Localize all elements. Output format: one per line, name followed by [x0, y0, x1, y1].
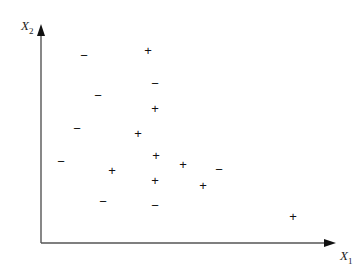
- plus-point: +: [289, 210, 297, 223]
- plus-point: +: [199, 179, 207, 192]
- plus-point: +: [144, 44, 152, 57]
- plus-point: +: [151, 102, 159, 115]
- minus-point: −: [94, 89, 102, 102]
- plus-point: +: [179, 158, 187, 171]
- x-axis-label: X1: [340, 248, 352, 266]
- minus-point: −: [99, 195, 107, 208]
- plus-point: +: [151, 174, 159, 187]
- minus-point: −: [215, 163, 223, 176]
- scatter-diagram: X2 X1 +++++++++−−−−−−−−: [0, 0, 364, 274]
- plus-point: +: [152, 149, 160, 162]
- plus-point: +: [134, 127, 142, 140]
- minus-point: −: [73, 122, 81, 135]
- plus-point: +: [108, 164, 116, 177]
- minus-point: −: [151, 199, 159, 212]
- axes: [0, 0, 364, 274]
- minus-point: −: [151, 77, 159, 90]
- y-axis-arrow-icon: [37, 24, 45, 36]
- minus-point: −: [80, 49, 88, 62]
- x-axis-arrow-icon: [324, 239, 336, 247]
- y-axis-label: X2: [21, 18, 33, 36]
- minus-point: −: [57, 155, 65, 168]
